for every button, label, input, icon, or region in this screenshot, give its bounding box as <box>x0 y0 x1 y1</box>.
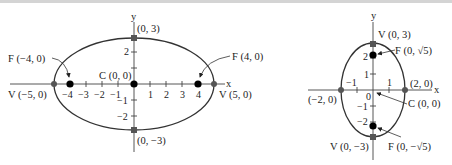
top-focus-label: F (0, √5) <box>395 45 432 57</box>
x-axis-label: x <box>226 78 232 89</box>
bottom-focus-marker <box>369 122 376 129</box>
right-covertex-marker <box>402 87 408 93</box>
left-focus-arrow <box>52 58 69 77</box>
vertical-ellipse-diagram: x y −1 1 0 2 1 −1 −2 V (0, 3) F (0, √5) <box>308 10 441 160</box>
left-focus-label: F (−4, 0) <box>8 53 46 65</box>
right-vertex-marker <box>211 81 217 87</box>
top-focus-marker <box>369 51 376 58</box>
x-tick-label: 1 <box>387 77 392 88</box>
x-tick-label: 1 <box>148 89 153 100</box>
top-vertex-label: (0, 3) <box>137 23 160 35</box>
right-covertex-label: (2, 0) <box>410 78 433 90</box>
bottom-vertex-marker <box>370 134 376 140</box>
center-marker <box>130 80 137 87</box>
left-vertex-marker <box>51 81 57 87</box>
center-label: C (0, 0) <box>408 98 441 110</box>
y-tick-label: 1 <box>364 69 369 80</box>
y-tick-label: −2 <box>357 116 368 127</box>
right-focus-label: F (4, 0) <box>232 51 264 63</box>
y-axis-label: y <box>371 10 377 21</box>
y-tick-label: 2 <box>124 46 129 57</box>
bottom-focus-label: F (0, −√5) <box>388 141 431 153</box>
x-tick-label: 4 <box>196 89 201 100</box>
right-vertex-label: V (5, 0) <box>219 89 252 101</box>
x-tick-label: 3 <box>180 89 185 100</box>
center-arrow <box>377 93 407 104</box>
top-vertex-marker <box>131 35 137 41</box>
right-focus-marker <box>194 80 201 87</box>
x-tick-label: −3 <box>78 89 89 100</box>
top-vertex-label: V (0, 3) <box>378 29 411 41</box>
left-covertex-label: (−2, 0) <box>308 94 337 106</box>
horizontal-ellipse-diagram: x y −4 −3 −2 −1 1 2 3 4 2 −1 −2 <box>8 11 264 152</box>
y-axis-label: y <box>131 11 137 22</box>
bottom-vertex-label: (0, −3) <box>137 135 166 147</box>
right-focus-arrow <box>200 56 230 77</box>
y-tick-label: −2 <box>117 111 128 122</box>
center-label: C (0, 0) <box>99 70 132 82</box>
y-tick-label: −1 <box>117 95 128 106</box>
x-tick-label: 2 <box>164 89 169 100</box>
x-tick-label: −4 <box>62 89 73 100</box>
y-tick-label: 2 <box>363 51 368 62</box>
left-covertex-marker <box>338 87 344 93</box>
top-vertex-marker <box>370 41 376 47</box>
bottom-vertex-marker <box>131 127 137 133</box>
ellipse-diagrams: x y −4 −3 −2 −1 1 2 3 4 2 −1 −2 <box>0 0 452 165</box>
y-tick-label: −1 <box>357 101 368 112</box>
bottom-vertex-label: V (0, −3) <box>330 141 369 153</box>
x-axis-label: x <box>434 84 440 95</box>
x-tick-label: −1 <box>346 77 357 88</box>
left-vertex-label: V (−5, 0) <box>8 89 47 101</box>
left-focus-marker <box>66 80 73 87</box>
x-tick-label: −2 <box>94 89 105 100</box>
